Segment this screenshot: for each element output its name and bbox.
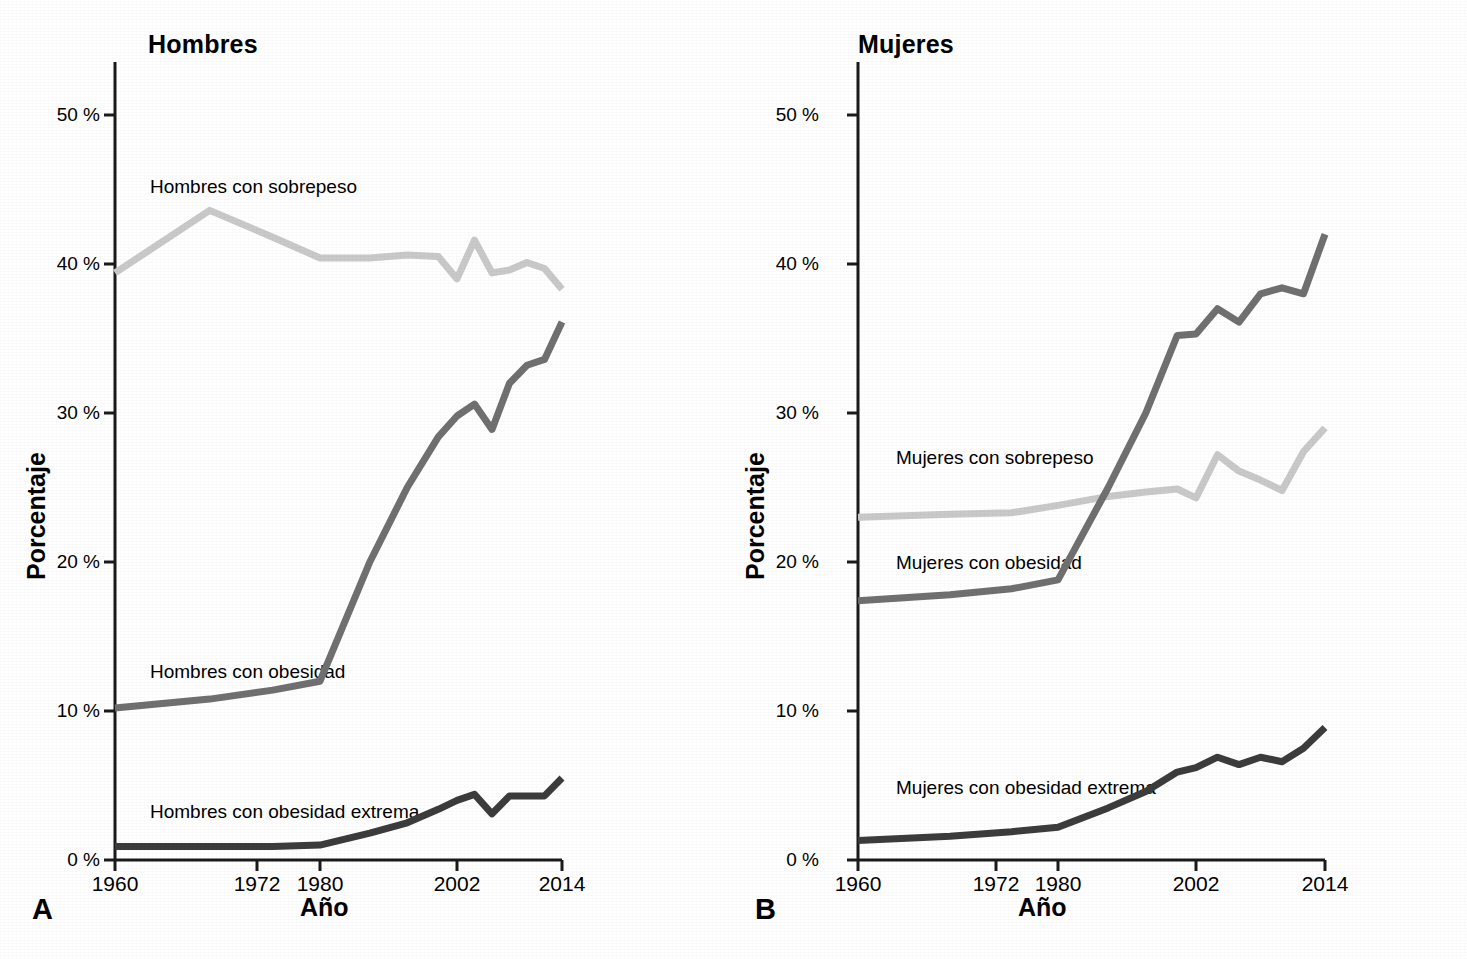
panel-b-plot: [733, 0, 1467, 959]
series-line-hombres-con-obesidad: [115, 322, 562, 708]
series-line-mujeres-con-obesidad: [858, 234, 1325, 601]
series-line-hombres-con-obesidad-extrema: [115, 778, 562, 847]
panel-a-plot: [0, 0, 733, 959]
figure-root: Hombres A Porcentaje Año 0 % 10 % 20 % 3…: [0, 0, 1467, 959]
panel-mujeres: Mujeres B Porcentaje Año 0 % 10 % 20 % 3…: [733, 0, 1467, 959]
series-line-mujeres-con-sobrepeso: [858, 428, 1325, 517]
panel-hombres: Hombres A Porcentaje Año 0 % 10 % 20 % 3…: [0, 0, 733, 959]
series-line-mujeres-con-obesidad-extrema: [858, 727, 1325, 840]
series-line-hombres-con-sobrepeso: [115, 210, 562, 289]
